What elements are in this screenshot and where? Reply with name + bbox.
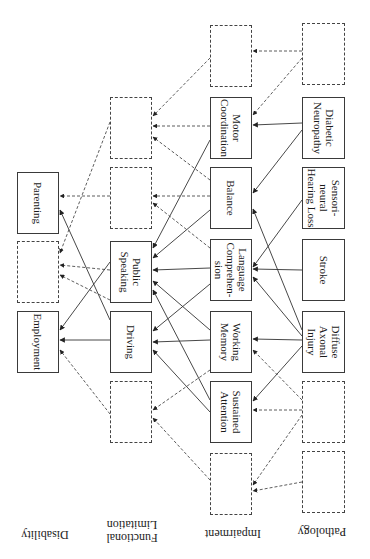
node-label: Motor Coordination (219, 97, 243, 159)
level-label-disability: Disability (10, 528, 80, 541)
level-label-impairment: Impairment (193, 527, 273, 540)
node-blank-pathology-3 (302, 451, 345, 513)
node-blank-pathology-1 (302, 23, 345, 85)
node-motor-coordination: Motor Coordination (210, 97, 252, 159)
node-sustained-attention: Sustained Attention (210, 381, 252, 443)
node-label: Parenting (32, 172, 44, 234)
node-label: Public Speaking (119, 241, 143, 303)
level-label-pathology: Pathology (287, 525, 357, 538)
node-parenting: Parenting (17, 172, 59, 234)
node-label: Stroke (318, 239, 330, 301)
node-sensorineural-hearing-loss: Sensori- neural Hearing Loss (302, 167, 345, 229)
node-public-speaking: Public Speaking (110, 241, 152, 303)
node-label: Diabetic Neuropathy (312, 97, 336, 159)
node-stroke: Stroke (302, 239, 345, 301)
node-language-comprehension: Language Comprehen- sion (210, 239, 252, 301)
node-label: Driving (125, 311, 137, 373)
node-label: Working Memory (219, 311, 243, 373)
node-label: Sensori- neural Hearing Loss (306, 167, 342, 229)
node-label: Sustained Attention (219, 381, 243, 443)
node-employment: Employment (17, 311, 59, 373)
node-blank-pathology-2 (302, 381, 345, 443)
level-label-functional-limitation: Functional Limitation (92, 518, 172, 544)
node-label: Diffuse Axonal Injury (306, 311, 342, 373)
node-working-memory: Working Memory (210, 311, 252, 373)
node-label: Employment (32, 311, 44, 373)
node-blank-impairment-1 (210, 25, 252, 87)
node-balance: Balance (210, 167, 252, 229)
node-blank-impairment-2 (210, 453, 252, 515)
node-blank-functional-3 (110, 381, 152, 443)
disablement-diagram: Parenting Employment Public Speaking Dri… (0, 0, 370, 559)
node-label: Balance (225, 167, 237, 229)
node-diffuse-axonal-injury: Diffuse Axonal Injury (302, 311, 345, 373)
node-blank-functional-1 (110, 97, 152, 159)
node-label: Language Comprehen- sion (213, 239, 249, 301)
node-blank-functional-2 (110, 167, 152, 229)
node-blank-disability (17, 241, 59, 303)
node-driving: Driving (110, 311, 152, 373)
node-diabetic-neuropathy: Diabetic Neuropathy (302, 97, 345, 159)
